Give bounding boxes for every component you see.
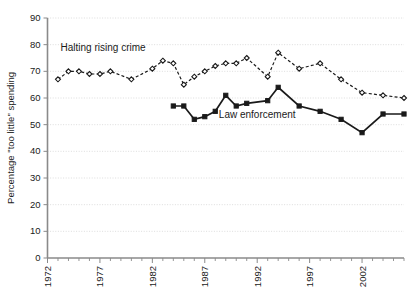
data-point-marker xyxy=(87,72,92,77)
data-point-marker xyxy=(192,74,197,79)
x-tick-label: 1977 xyxy=(94,266,105,287)
data-point-marker xyxy=(234,104,238,108)
chart-container: 0102030405060708090 19721977198219871992… xyxy=(0,0,415,304)
y-tick-label: 50 xyxy=(30,119,41,130)
data-point-marker xyxy=(318,109,322,113)
data-point-marker xyxy=(245,101,249,105)
data-point-marker xyxy=(223,61,228,66)
data-point-marker xyxy=(266,99,270,103)
data-point-marker xyxy=(76,69,81,74)
data-point-marker xyxy=(234,61,239,66)
data-point-marker xyxy=(213,64,218,69)
data-point-marker xyxy=(244,56,249,61)
y-tick-label: 20 xyxy=(30,199,41,210)
data-point-marker xyxy=(297,104,301,108)
y-tick-label: 90 xyxy=(30,12,41,23)
data-point-marker xyxy=(402,96,407,101)
data-point-marker xyxy=(203,115,207,119)
annotation-layer: Halting rising crimeLaw enforcement xyxy=(61,42,296,120)
y-tick-label: 60 xyxy=(30,92,41,103)
x-tick-label: 1992 xyxy=(252,266,263,287)
data-point-marker xyxy=(224,93,228,97)
x-tick-label: 1987 xyxy=(199,266,210,287)
series-line-dashed xyxy=(58,53,404,98)
data-point-marker xyxy=(381,93,386,98)
data-point-marker xyxy=(276,85,280,89)
axis-lines xyxy=(48,18,405,258)
y-tick-label: 10 xyxy=(30,225,41,236)
data-point-marker xyxy=(129,77,134,82)
series-layer xyxy=(55,50,406,135)
data-point-marker xyxy=(182,104,186,108)
data-point-marker xyxy=(339,117,343,121)
series-annotation-1: Law enforcement xyxy=(219,109,296,120)
data-point-marker xyxy=(213,109,217,113)
data-point-marker xyxy=(108,69,113,74)
data-point-marker xyxy=(97,72,102,77)
y-tick-label: 40 xyxy=(30,145,41,156)
y-axis-tick-labels: 0102030405060708090 xyxy=(30,12,41,263)
data-point-marker xyxy=(202,69,207,74)
y-tick-label: 80 xyxy=(30,39,41,50)
y-tick-label: 30 xyxy=(30,172,41,183)
x-tick-label: 1982 xyxy=(147,266,158,287)
data-point-marker xyxy=(381,112,385,116)
series-annotation-0: Halting rising crime xyxy=(61,42,146,53)
data-point-marker xyxy=(360,131,364,135)
y-tick-label: 70 xyxy=(30,65,41,76)
data-point-marker xyxy=(171,61,176,66)
x-tick-label: 1972 xyxy=(42,266,53,287)
x-axis-tick-labels: 1972197719821987199219972002 xyxy=(42,266,368,287)
line-chart: 0102030405060708090 19721977198219871992… xyxy=(0,0,415,304)
data-point-marker xyxy=(402,112,406,116)
x-tick-label: 1997 xyxy=(304,266,315,287)
y-tick-label: 0 xyxy=(35,252,40,263)
data-point-marker xyxy=(160,58,165,63)
data-point-marker xyxy=(192,117,196,121)
y-axis-title: Percentage "too little" spending xyxy=(5,72,16,204)
data-point-marker xyxy=(171,104,175,108)
x-tick-label: 2002 xyxy=(357,266,368,287)
